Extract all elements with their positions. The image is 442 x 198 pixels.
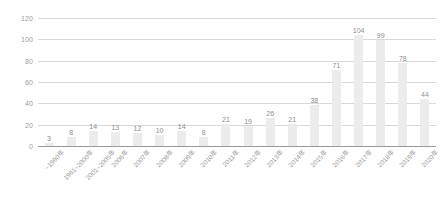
bar-value-label: 71 xyxy=(333,62,341,69)
bar-series: 3814131210148211926213871104997844 xyxy=(38,18,436,146)
bar-value-label: 26 xyxy=(266,110,274,117)
x-axis-labels: ~1990年1991~2000年2001~2005年2006年2007年2008… xyxy=(38,146,436,198)
bar[interactable]: 8 xyxy=(67,137,76,146)
y-axis-tick-label: 80 xyxy=(25,57,33,64)
bar-value-label: 12 xyxy=(134,125,142,132)
x-label-slot: 2007年 xyxy=(126,146,148,198)
bar-value-label: 8 xyxy=(69,129,73,136)
x-label-slot: 2009年 xyxy=(171,146,193,198)
bar-slot: 21 xyxy=(215,18,237,146)
bar-slot: 71 xyxy=(325,18,347,146)
bar-slot: 8 xyxy=(193,18,215,146)
bar-slot: 3 xyxy=(38,18,60,146)
bar-slot: 38 xyxy=(303,18,325,146)
bar-value-label: 21 xyxy=(222,116,230,123)
bar-slot: 26 xyxy=(259,18,281,146)
bar[interactable]: 21 xyxy=(288,124,297,146)
x-axis-tick-label: 2020年 xyxy=(420,149,440,169)
bar[interactable]: 10 xyxy=(155,135,164,146)
bar[interactable]: 21 xyxy=(221,124,230,146)
bar-value-label: 99 xyxy=(377,32,385,39)
y-axis-tick-label: 100 xyxy=(21,36,33,43)
x-label-slot: 2017年 xyxy=(348,146,370,198)
x-label-slot: ~1990年 xyxy=(38,146,60,198)
bar-slot: 10 xyxy=(149,18,171,146)
bar-slot: 12 xyxy=(126,18,148,146)
y-axis-tick-label: 20 xyxy=(25,121,33,128)
x-label-slot: 1991~2000年 xyxy=(60,146,82,198)
y-axis-tick-label: 0 xyxy=(29,143,33,150)
bar-value-label: 8 xyxy=(202,129,206,136)
bar[interactable]: 14 xyxy=(177,131,186,146)
bar-chart: 020406080100120 381413121014821192621387… xyxy=(0,0,442,198)
x-label-slot: 2011年 xyxy=(215,146,237,198)
y-axis-tick-label: 60 xyxy=(25,79,33,86)
x-label-slot: 2019年 xyxy=(392,146,414,198)
bar-slot: 14 xyxy=(171,18,193,146)
bar-value-label: 14 xyxy=(178,123,186,130)
bar-slot: 13 xyxy=(104,18,126,146)
x-label-slot: 2012年 xyxy=(237,146,259,198)
bar[interactable]: 78 xyxy=(398,63,407,146)
x-label-slot: 2020年 xyxy=(414,146,436,198)
bar-value-label: 19 xyxy=(244,118,252,125)
bar[interactable]: 44 xyxy=(420,99,429,146)
bar[interactable]: 26 xyxy=(266,118,275,146)
bar-value-label: 14 xyxy=(89,123,97,130)
bar-slot: 99 xyxy=(370,18,392,146)
bar[interactable]: 19 xyxy=(244,126,253,146)
bar[interactable]: 14 xyxy=(89,131,98,146)
bar-value-label: 21 xyxy=(288,116,296,123)
x-label-slot: 2006年 xyxy=(104,146,126,198)
x-label-slot: 2018年 xyxy=(370,146,392,198)
x-label-slot: 2014年 xyxy=(281,146,303,198)
x-label-slot: 2013年 xyxy=(259,146,281,198)
x-label-slot: 2016年 xyxy=(325,146,347,198)
bar-value-label: 13 xyxy=(111,124,119,131)
bar[interactable]: 38 xyxy=(310,105,319,146)
bar-value-label: 44 xyxy=(421,91,429,98)
bar-slot: 78 xyxy=(392,18,414,146)
x-label-slot: 2015年 xyxy=(303,146,325,198)
bar-slot: 104 xyxy=(348,18,370,146)
bar-slot: 8 xyxy=(60,18,82,146)
x-label-slot: 2001~2005年 xyxy=(82,146,104,198)
bar-value-label: 104 xyxy=(353,27,365,34)
x-label-slot: 2010年 xyxy=(193,146,215,198)
y-axis-tick-label: 40 xyxy=(25,100,33,107)
bar-value-label: 78 xyxy=(399,55,407,62)
bar-value-label: 10 xyxy=(156,127,164,134)
bar-slot: 19 xyxy=(237,18,259,146)
bar[interactable]: 13 xyxy=(111,132,120,146)
plot-area: 020406080100120 381413121014821192621387… xyxy=(38,18,436,146)
bar-slot: 44 xyxy=(414,18,436,146)
bar[interactable]: 104 xyxy=(354,35,363,146)
bar[interactable]: 71 xyxy=(332,70,341,146)
bar[interactable]: 12 xyxy=(133,133,142,146)
bar-value-label: 3 xyxy=(47,135,51,142)
bar-slot: 21 xyxy=(281,18,303,146)
bar[interactable]: 8 xyxy=(199,137,208,146)
bar[interactable]: 99 xyxy=(376,40,385,146)
y-axis-tick-label: 120 xyxy=(21,15,33,22)
bar-value-label: 38 xyxy=(310,97,318,104)
x-label-slot: 2008年 xyxy=(149,146,171,198)
bar-slot: 14 xyxy=(82,18,104,146)
